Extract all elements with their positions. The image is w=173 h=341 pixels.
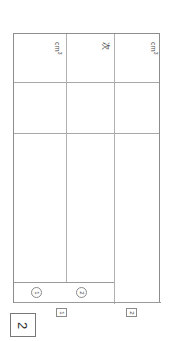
column-1-unit-exponent: 3	[57, 52, 63, 55]
boxed-marker-1-text: 1	[59, 311, 65, 314]
column-3-unit-label: cm3	[150, 42, 157, 55]
column-1-unit-text: cm	[54, 42, 61, 52]
column-3-unit-text: cm	[150, 42, 157, 52]
column-2-unit-text: 次	[101, 42, 110, 50]
band-divider-1	[14, 82, 159, 83]
column-rule-1	[66, 34, 67, 282]
figure-frame: cm3 次 cm3 1 2 1 2	[13, 33, 160, 303]
circled-marker-2-text: 2	[79, 291, 85, 294]
circled-marker-1-text: 1	[34, 291, 40, 294]
figure-number-box: 2	[10, 313, 36, 337]
column-1-unit-label: cm3	[54, 42, 61, 55]
column-3-unit-exponent: 3	[153, 52, 159, 55]
boxed-marker-2-text: 2	[129, 311, 135, 314]
circled-marker-2: 2	[76, 287, 87, 298]
band-divider-2	[14, 133, 159, 134]
footer-rule-2	[14, 302, 161, 303]
column-rule-2	[114, 34, 115, 304]
footer-rule-1	[14, 282, 114, 283]
boxed-marker-2: 2	[126, 308, 137, 317]
column-2-unit-label: 次	[101, 42, 109, 50]
circled-marker-1: 1	[31, 287, 42, 298]
figure-number-text: 2	[16, 321, 29, 328]
boxed-marker-1: 1	[56, 308, 67, 317]
